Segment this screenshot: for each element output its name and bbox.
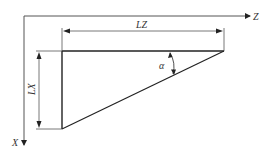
lz-dimension: LZ — [62, 19, 224, 51]
triangle — [62, 51, 224, 129]
alpha-angle: α — [159, 52, 176, 75]
alpha-label: α — [159, 60, 165, 71]
triangle-hypotenuse — [62, 51, 224, 129]
lz-arrow-left — [63, 29, 70, 34]
lx-label: LX — [26, 82, 37, 96]
x-axis-label: X — [11, 137, 19, 148]
coordinate-axes: Z X — [11, 11, 259, 148]
diagram-canvas: Z X LZ LX α — [0, 0, 271, 161]
z-axis-label: Z — [253, 11, 259, 22]
triangle-diagram: Z X LZ LX α — [0, 0, 271, 161]
lz-arrow-right — [216, 29, 223, 34]
alpha-arrow-top — [168, 52, 173, 58]
lx-dimension: LX — [26, 51, 62, 129]
lx-arrow-bottom — [37, 121, 42, 128]
lz-label: LZ — [135, 19, 148, 30]
lx-arrow-top — [37, 52, 42, 59]
